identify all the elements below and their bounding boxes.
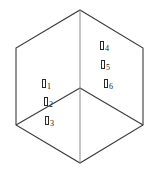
box-glyph-icon — [101, 60, 105, 69]
face-label-subscript: 2 — [49, 101, 53, 109]
box-glyph-icon — [104, 79, 108, 88]
face-label-1: 1 — [42, 78, 51, 91]
figure-canvas: 1 2 3 4 5 6 — [0, 0, 157, 180]
face-label-subscript: 3 — [50, 120, 54, 128]
face-label-4: 4 — [100, 40, 109, 53]
face-label-subscript: 6 — [109, 83, 113, 91]
cube-diagram-svg — [0, 0, 157, 180]
spoke-lower-right-line — [80, 88, 143, 125]
face-label-6: 6 — [104, 78, 113, 91]
box-glyph-icon — [100, 41, 104, 50]
box-glyph-icon — [45, 116, 49, 125]
face-label-subscript: 4 — [105, 45, 109, 53]
face-label-subscript: 5 — [106, 64, 110, 72]
face-label-5: 5 — [101, 59, 110, 72]
face-label-3: 3 — [45, 115, 54, 128]
box-glyph-icon — [42, 79, 46, 88]
box-glyph-icon — [44, 97, 48, 106]
face-label-subscript: 1 — [47, 83, 51, 91]
face-label-2: 2 — [44, 96, 53, 109]
